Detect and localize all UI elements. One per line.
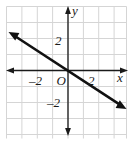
origin-label: O [57, 73, 67, 88]
x-tick-label-positive-2: 2 [88, 73, 95, 88]
y-axis-label: y [70, 3, 78, 18]
coordinate-plane-figure: y x O –2 2 2 –2 [0, 0, 134, 143]
x-tick-label-negative-2: –2 [28, 73, 43, 88]
y-tick-label-positive-2: 2 [55, 33, 62, 48]
x-axis-label: x [116, 70, 123, 85]
y-tick-label-negative-2: –2 [46, 95, 61, 110]
